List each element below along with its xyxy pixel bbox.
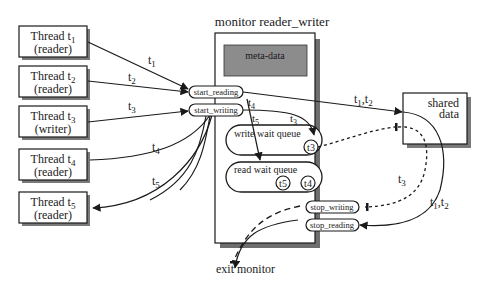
svg-text:stop_writing: stop_writing [311,202,355,212]
svg-text:meta-data: meta-data [245,50,285,61]
svg-text:t1,t2: t1,t2 [430,195,449,211]
svg-text:t1,t2: t1,t2 [354,92,373,108]
svg-text:t5: t5 [152,174,160,190]
svg-text:read wait queue: read wait queue [234,164,298,175]
write-wait-queue: write wait queue t3 [226,125,322,155]
entry-start-writing: start_writing [189,104,243,116]
svg-text:t3: t3 [398,172,406,188]
entry-start-reading: start_reading [189,86,243,98]
thread-box-t2: Thread t2 (reader) [19,66,90,100]
thread-box-t3: Thread t3 (writer) [19,106,90,140]
monitor-title: monitor reader_writer [215,14,330,29]
svg-text:t5: t5 [279,178,287,189]
svg-text:start_writing: start_writing [194,105,238,115]
entry-stop-writing: stop_writing [306,201,359,213]
entry-stop-reading: stop_reading [306,219,359,231]
meta-data-block: meta-data [224,45,307,76]
thread-box-t5: Thread t5 (reader) [19,192,90,226]
svg-text:t4: t4 [152,140,160,156]
svg-text:t3: t3 [128,99,136,115]
svg-text:(reader): (reader) [34,42,72,56]
exit-monitor-label: exit monitor [216,262,275,276]
svg-text:data: data [439,107,460,121]
svg-text:t2: t2 [128,70,136,86]
svg-text:(reader): (reader) [34,82,72,96]
svg-text:t1: t1 [148,53,156,69]
svg-text:(writer): (writer) [35,122,72,136]
monitor-diagram: Thread t1 (reader) Thread t2 (reader) Th… [0,0,480,288]
shared-data-box: shared data [403,93,471,148]
svg-text:t3: t3 [307,142,315,153]
svg-text:write wait queue: write wait queue [234,128,301,139]
svg-text:(reader): (reader) [34,208,72,222]
svg-text:stop_reading: stop_reading [310,220,355,230]
thread-box-t4: Thread t4 (reader) [19,149,90,183]
svg-text:(reader): (reader) [34,165,72,179]
svg-text:t4: t4 [304,178,312,189]
thread-box-t1: Thread t1 (reader) [19,26,90,60]
read-wait-queue: read wait queue t5 t4 [226,162,322,192]
svg-text:start_reading: start_reading [194,87,239,97]
